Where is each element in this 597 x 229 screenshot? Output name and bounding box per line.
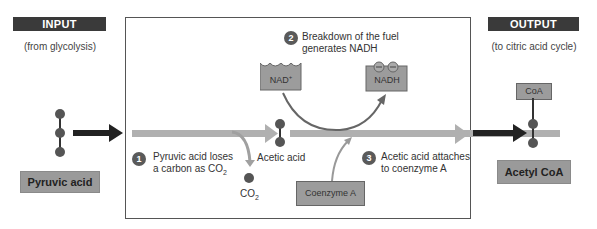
nadh-label: NADH <box>365 75 409 85</box>
step-3-text: Acetic acid attaches to coenzyme A <box>381 151 476 175</box>
acetic-acid-label: Acetic acid <box>257 152 305 164</box>
step-1-badge: 1 <box>132 152 146 166</box>
step-1-line1: Pyruvic acid loses <box>153 151 263 163</box>
step-2-badge: 2 <box>284 31 298 45</box>
acetyl-coa-label: Acetyl CoA <box>497 160 571 184</box>
pyruvic-acid-molecule-icon <box>50 108 70 158</box>
step-3-line1: Acetic acid attaches <box>381 151 476 163</box>
step-2-line1: Breakdown of the fuel <box>302 31 432 43</box>
input-source-label: (from glycolysis) <box>5 41 115 52</box>
co2-molecule-icon <box>243 172 255 184</box>
nad-plus-label: NAD+ <box>260 74 302 85</box>
co2-label: CO2 <box>240 188 259 204</box>
pyruvic-acid-label: Pyruvic acid <box>20 171 100 193</box>
output-tag: OUTPUT <box>488 17 579 31</box>
step-2-line2: generates NADH <box>302 43 432 55</box>
coenzyme-a-box: Coenzyme A <box>296 181 365 206</box>
step-3-line2: to coenzyme A <box>381 163 476 175</box>
input-tag: INPUT <box>13 17 106 31</box>
step-2-text: Breakdown of the fuel generates NADH <box>302 31 432 55</box>
main-flow-arrowhead-icon <box>455 124 471 144</box>
step-3-badge: 3 <box>362 151 376 165</box>
nad-reduction-arrow-icon <box>280 90 390 135</box>
input-arrow-icon <box>73 124 125 142</box>
output-arrow-icon <box>473 124 529 142</box>
coenzyme-attach-arrow-icon <box>326 135 356 183</box>
acetyl-coa-molecule-icon <box>526 98 540 150</box>
output-destination-label: (to citric acid cycle) <box>478 41 590 52</box>
